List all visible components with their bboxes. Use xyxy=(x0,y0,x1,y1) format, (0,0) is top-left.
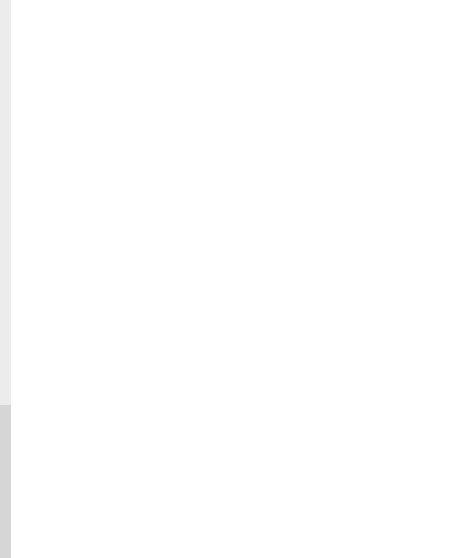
diagram-canvas xyxy=(0,0,453,558)
